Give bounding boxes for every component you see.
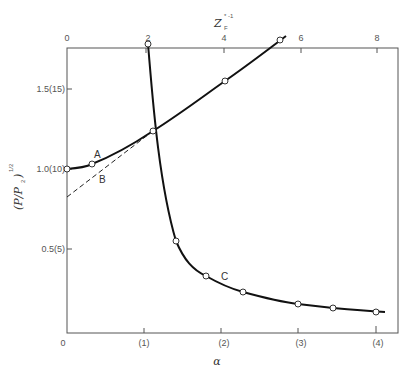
y-axis-title-sub: 2 xyxy=(20,179,26,183)
top-tick-4: 4 xyxy=(221,33,226,43)
y-tick-0.5: 0.5(5) xyxy=(41,244,65,254)
bottom-tick-4: (4) xyxy=(373,338,384,348)
top-axis-title-sub: F xyxy=(224,25,228,31)
curve-c-label: C xyxy=(221,271,228,282)
top-tick-0: 0 xyxy=(64,33,69,43)
curve-a-point xyxy=(222,78,228,84)
bottom-axis-ticks xyxy=(144,326,376,333)
y-axis-title-sup: 1/2 xyxy=(8,163,14,172)
bottom-tick-3: (3) xyxy=(296,338,307,348)
plot-frame xyxy=(67,48,398,333)
y-tick-1.0: 1.0(10) xyxy=(36,164,65,174)
curve-c-point xyxy=(295,301,301,307)
curve-c-line xyxy=(148,44,385,312)
y-axis-title-close: ) xyxy=(12,174,25,179)
top-tick-8: 8 xyxy=(374,33,379,43)
top-axis-title: Z F * -1 xyxy=(213,13,234,31)
top-axis-title-main: Z xyxy=(213,17,222,30)
curve-c-point xyxy=(240,289,246,295)
curve-c-point xyxy=(373,309,379,315)
curve-b-label: B xyxy=(99,174,106,185)
chart: 0 2 4 6 8 Z F * -1 0 (1) (2) (3) (4) α 1… xyxy=(0,0,410,372)
y-axis-title-main: (P/P xyxy=(12,187,25,210)
curve-a-point xyxy=(64,166,70,172)
curve-a-point xyxy=(89,161,95,167)
top-axis-ticks xyxy=(146,48,377,53)
curve-a-point xyxy=(277,37,283,43)
curve-c-point xyxy=(203,273,209,279)
curve-c-point xyxy=(173,238,179,244)
curve-a-label: A xyxy=(94,149,101,160)
curve-b-line xyxy=(67,131,153,197)
bottom-tick-1: (1) xyxy=(139,338,150,348)
top-axis-title-sup: * -1 xyxy=(224,13,234,19)
curve-c-markers xyxy=(145,41,379,315)
bottom-tick-0: 0 xyxy=(60,338,65,348)
curve-a-point xyxy=(150,128,156,134)
y-tick-1.5: 1.5(15) xyxy=(36,84,65,94)
x-axis-title: α xyxy=(213,355,221,368)
top-tick-6: 6 xyxy=(298,33,303,43)
curve-c-point xyxy=(330,305,336,311)
curve-c-point xyxy=(145,41,151,47)
y-axis-title: (P/P 2 ) 1/2 xyxy=(8,163,26,210)
bottom-tick-2: (2) xyxy=(219,338,230,348)
